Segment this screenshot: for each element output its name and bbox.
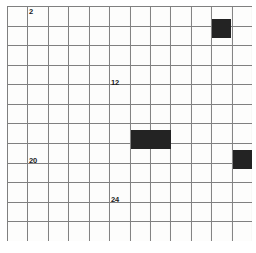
cell-label: 2 [29,8,33,16]
grid-diagram-canvas: 2122024 [0,0,256,253]
grid-container: 2122024 [7,6,252,241]
filled-cell [212,19,231,38]
filled-cell [131,130,171,149]
cell-label: 24 [111,196,119,204]
cell-label: 20 [29,157,37,165]
grid-lines [7,6,252,241]
cell-label: 12 [111,79,119,87]
filled-cell [233,150,252,169]
